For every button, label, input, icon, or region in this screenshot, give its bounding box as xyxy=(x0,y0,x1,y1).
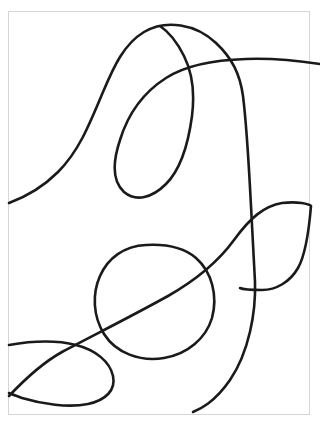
diagonal-to-right-loop-stroke xyxy=(9,202,311,396)
line-drawing-canvas xyxy=(0,0,320,429)
center-oval-loop-stroke xyxy=(95,245,215,359)
artboard xyxy=(0,0,320,429)
upper-teardrop-loop-stroke xyxy=(115,26,320,198)
stroke-group xyxy=(9,25,320,412)
upper-sweep-stroke xyxy=(9,25,255,412)
